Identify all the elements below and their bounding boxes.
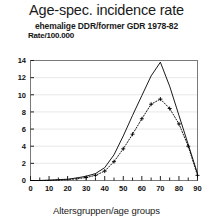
- svg-text:2: 2: [22, 159, 26, 168]
- svg-text:50: 50: [119, 184, 127, 193]
- svg-text:10: 10: [18, 91, 26, 100]
- svg-text:6: 6: [22, 125, 26, 134]
- svg-text:30: 30: [82, 184, 90, 193]
- svg-text:80: 80: [175, 184, 183, 193]
- plot-area: 024681012140102030405060708090: [0, 0, 213, 220]
- svg-text:14: 14: [18, 56, 27, 65]
- chart-figure: Age-spec. incidence rate ehemalige DDR/f…: [0, 0, 213, 220]
- svg-text:90: 90: [193, 184, 201, 193]
- svg-text:20: 20: [63, 184, 71, 193]
- grid-lines: [31, 61, 198, 164]
- svg-text:60: 60: [138, 184, 146, 193]
- data-series: [31, 62, 200, 180]
- svg-text:12: 12: [18, 73, 26, 82]
- svg-text:0: 0: [22, 176, 26, 185]
- svg-text:8: 8: [22, 108, 26, 117]
- svg-text:10: 10: [45, 184, 53, 193]
- axis-tick-labels: 024681012140102030405060708090: [18, 56, 202, 193]
- svg-text:70: 70: [156, 184, 164, 193]
- svg-text:4: 4: [22, 142, 27, 151]
- svg-text:0: 0: [28, 184, 32, 193]
- svg-text:40: 40: [101, 184, 109, 193]
